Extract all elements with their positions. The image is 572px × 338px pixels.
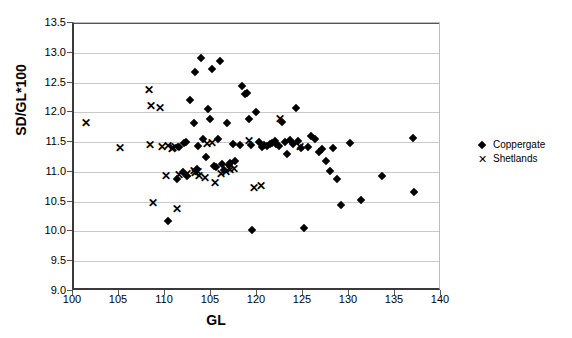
data-point-coppergate [186, 96, 194, 104]
data-point-coppergate [191, 68, 199, 76]
data-point-coppergate [333, 175, 341, 183]
data-point-coppergate [408, 134, 416, 142]
gridline [74, 172, 439, 173]
data-point-coppergate [346, 139, 354, 147]
chart-legend: Coppergate ✕ Shetlands [476, 138, 545, 166]
gridline [74, 261, 439, 262]
data-point-coppergate [222, 119, 230, 127]
y-axis-tick-mark [67, 22, 72, 23]
data-point-coppergate [248, 225, 256, 233]
gridline [74, 23, 439, 24]
data-point-shetlands: ✕ [143, 84, 155, 96]
y-axis-tick-mark [67, 52, 72, 53]
y-axis-tick-label: 9.5 [18, 255, 66, 266]
data-point-coppergate [245, 115, 253, 123]
legend-label: Coppergate [493, 138, 545, 152]
x-axis-tick-label: 120 [236, 294, 276, 305]
y-axis-title: SD/GL*100 [13, 15, 29, 185]
gridline [74, 202, 439, 203]
y-axis-tick-mark [67, 141, 72, 142]
data-point-coppergate [283, 150, 291, 158]
legend-item-shetlands: ✕ Shetlands [476, 152, 545, 166]
data-point-coppergate [322, 157, 330, 165]
data-point-shetlands: ✕ [114, 142, 126, 154]
x-axis-tick-label: 125 [282, 294, 322, 305]
data-point-shetlands: ✕ [274, 113, 286, 125]
plot-area: ✕✕✕✕✕✕✕✕✕✕✕✕✕✕✕✕✕✕✕✕✕✕✕✕✕✕✕✕✕✕✕✕✕ [72, 22, 440, 290]
data-point-shetlands: ✕ [160, 170, 172, 182]
x-axis-tick-mark [164, 290, 165, 295]
x-axis-title: GL [176, 312, 256, 328]
y-axis-tick-label: 12.5 [18, 76, 66, 87]
data-point-coppergate [326, 166, 334, 174]
x-axis-tick-mark [394, 290, 395, 295]
data-point-coppergate [216, 57, 224, 65]
data-point-coppergate [357, 196, 365, 204]
x-axis-tick-label: 135 [374, 294, 414, 305]
cross-marker-icon: ✕ [476, 154, 488, 165]
data-point-shetlands: ✕ [147, 197, 159, 209]
legend-item-coppergate: Coppergate [476, 138, 545, 152]
x-axis-tick-label: 140 [420, 294, 460, 305]
x-axis-tick-label: 110 [144, 294, 184, 305]
data-point-shetlands: ✕ [80, 117, 92, 129]
x-axis-tick-label: 100 [52, 294, 92, 305]
data-point-coppergate [378, 172, 386, 180]
data-point-coppergate [164, 217, 172, 225]
data-point-coppergate [189, 119, 197, 127]
gridline [74, 231, 439, 232]
data-point-shetlands: ✕ [255, 180, 267, 192]
x-axis-tick-mark [72, 290, 73, 295]
y-axis-tick-label: 13.5 [18, 17, 66, 28]
data-point-shetlands: ✕ [154, 102, 166, 114]
y-axis-tick-label: 13.0 [18, 46, 66, 57]
legend-label: Shetlands [493, 152, 537, 166]
y-axis-tick-label: 10.5 [18, 195, 66, 206]
data-point-shetlands: ✕ [169, 141, 181, 153]
data-point-coppergate [197, 53, 205, 61]
y-axis-tick-label: 11.0 [18, 165, 66, 176]
data-point-coppergate [252, 108, 260, 116]
x-axis-tick-mark [302, 290, 303, 295]
data-point-coppergate [410, 187, 418, 195]
data-point-coppergate [201, 153, 209, 161]
data-point-shetlands: ✕ [144, 139, 156, 151]
x-axis-tick-mark [256, 290, 257, 295]
x-axis-tick-mark [210, 290, 211, 295]
data-point-shetlands: ✕ [243, 135, 255, 147]
y-axis-tick-mark [67, 260, 72, 261]
data-point-coppergate [208, 65, 216, 73]
x-axis-tick-mark [348, 290, 349, 295]
data-point-coppergate [329, 144, 337, 152]
gridline [74, 83, 439, 84]
data-point-coppergate [291, 103, 299, 111]
data-point-shetlands: ✕ [206, 137, 218, 149]
diamond-marker-icon [478, 141, 486, 149]
y-axis-tick-mark [67, 230, 72, 231]
gridline [74, 53, 439, 54]
x-axis-tick-mark [118, 290, 119, 295]
data-point-shetlands: ✕ [171, 203, 183, 215]
y-axis-tick-label: 11.5 [18, 136, 66, 147]
y-axis-tick-mark [67, 82, 72, 83]
x-axis-tick-label: 105 [190, 294, 230, 305]
y-axis-tick-mark [67, 171, 72, 172]
x-axis-tick-label: 130 [328, 294, 368, 305]
x-axis-tick-label: 105 [98, 294, 138, 305]
y-axis-tick-label: 12.0 [18, 106, 66, 117]
data-point-coppergate [206, 115, 214, 123]
y-axis-tick-label: 10.0 [18, 225, 66, 236]
data-point-shetlands: ✕ [294, 141, 306, 153]
scatter-chart: SD/GL*100 ✕✕✕✕✕✕✕✕✕✕✕✕✕✕✕✕✕✕✕✕✕✕✕✕✕✕✕✕✕✕… [0, 0, 572, 338]
y-axis-tick-mark [67, 201, 72, 202]
data-point-shetlands: ✕ [228, 163, 240, 175]
y-axis-tick-mark [67, 111, 72, 112]
x-axis-tick-mark [440, 290, 441, 295]
